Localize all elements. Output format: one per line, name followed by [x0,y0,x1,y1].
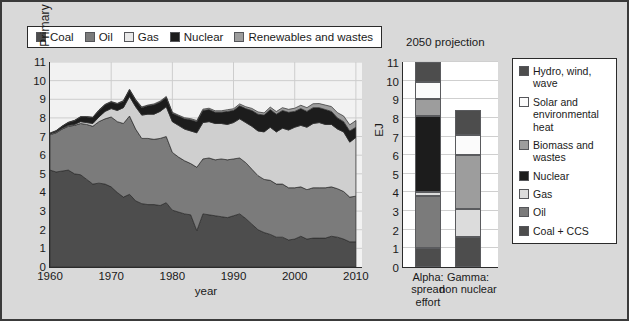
figure-container: CoalOilGasNuclearRenewables and wastes P… [0,0,629,321]
x-tick-label: 2010 [343,270,369,282]
legend-item-renewables-and-wastes: Renewables and wastes [234,31,373,43]
left-x-axis-label: year [50,285,362,297]
legend-label: Solar and environmental heat [533,96,611,133]
bar-segment-gas [455,209,481,237]
bar-segment-solar-and-environmental-heat [455,135,481,156]
legend-item-oil: Oil [85,31,113,43]
legend-label: Biomass and wastes [533,139,611,164]
right-y-tick-label: 8 [385,113,399,125]
x-tick-label: 1970 [98,270,124,282]
legend-swatch-icon [519,97,529,107]
legend-swatch-icon [234,32,244,42]
bar-segment-biomass-and-wastes [415,99,441,116]
right-y-tick-label: 9 [385,94,399,106]
legend-swatch-icon [85,32,95,42]
y-tick-label: 3 [30,205,46,217]
right-y-tick-label: 3 [385,206,399,218]
legend-item-gas: Gas [124,31,159,43]
right-y-tick-label: 2 [385,225,399,237]
y-tick-label: 5 [30,168,46,180]
y-tick-label: 2 [30,224,46,236]
right-legend-item-coal-+-ccs: Coal + CCS [519,225,611,237]
left-chart-legend: CoalOilGasNuclearRenewables and wastes [27,26,382,48]
legend-swatch-icon [519,226,529,236]
right-legend-item-hydro-wind-wave: Hydro, wind, wave [519,65,611,90]
right-y-tick-label: 5 [385,169,399,181]
legend-label: Oil [99,31,113,43]
bar-segment-gas [415,192,441,197]
right-y-tick-label: 7 [385,132,399,144]
bar-segment-hydro-wind-wave [455,110,481,134]
primary-energy-area-chart: Primary Energy/EJ 01234567891011 1960197… [49,62,362,268]
legend-swatch-icon [519,140,529,150]
legend-label: Coal [50,31,74,43]
right-chart-title: 2050 projection [406,36,485,48]
legend-swatch-icon [519,189,529,199]
y-tick-label: 1 [30,242,46,254]
right-y-tick-label: 10 [385,76,399,88]
right-y-tick-label: 6 [385,150,399,162]
right-y-tick-label: 0 [385,262,399,274]
right-y-tick-label: 1 [385,243,399,255]
bar-segment-oil [415,196,441,248]
x-tick-label: 1990 [221,270,247,282]
legend-label: Hydro, wind, wave [533,65,611,90]
bar-segment-nuclear [415,116,441,191]
right-legend-item-oil: Oil [519,206,611,218]
left-y-axis-label: Primary Energy/EJ [38,0,52,80]
y-tick-label: 6 [30,149,46,161]
legend-label: Gas [138,31,159,43]
legend-swatch-icon [519,171,529,181]
legend-label: Nuclear [184,31,224,43]
legend-swatch-icon [124,32,134,42]
right-legend-item-gas: Gas [519,188,611,200]
stacked-bar-gamma: Gamma: non nuclear [455,62,481,267]
projection-bar-chart: EJ 01234567891011 Alpha: spread effortGa… [402,62,498,268]
bar-segment-solar-and-environmental-heat [415,82,441,100]
y-tick-label: 10 [30,75,46,87]
legend-item-nuclear: Nuclear [170,31,224,43]
right-chart-legend: Hydro, wind, waveSolar and environmental… [512,58,617,244]
right-legend-item-biomass-and-wastes: Biomass and wastes [519,139,611,164]
x-tick-label: 1980 [160,270,186,282]
x-tick-label: 2000 [282,270,308,282]
y-tick-label: 4 [30,186,46,198]
legend-label: Gas [533,188,552,200]
y-tick-label: 7 [30,131,46,143]
right-legend-item-solar-and-environmental-heat: Solar and environmental heat [519,96,611,133]
legend-swatch-icon [519,207,529,217]
x-tick-label: 1960 [37,270,63,282]
right-y-tick-label: 11 [385,57,399,69]
area-chart-svg [50,62,362,267]
y-tick-label: 9 [30,93,46,105]
y-tick-label: 8 [30,112,46,124]
stacked-bar-alpha: Alpha: spread effort [415,62,441,267]
right-y-tick-label: 4 [385,187,399,199]
right-legend-item-nuclear: Nuclear [519,170,611,182]
legend-swatch-icon [519,66,529,76]
legend-label: Renewables and wastes [248,31,373,43]
bar-segment-coal-+-ccs [455,237,481,267]
bar-segment-hydro-wind-wave [415,62,441,82]
legend-label: Nuclear [533,170,569,182]
legend-swatch-icon [170,32,180,42]
bar-segment-biomass-and-wastes [455,155,481,209]
legend-label: Coal + CCS [533,225,589,237]
legend-label: Oil [533,206,546,218]
bar-segment-coal-+-ccs [415,248,441,267]
y-tick-label: 11 [30,56,46,68]
bar-category-label: Gamma: non nuclear [439,271,497,296]
